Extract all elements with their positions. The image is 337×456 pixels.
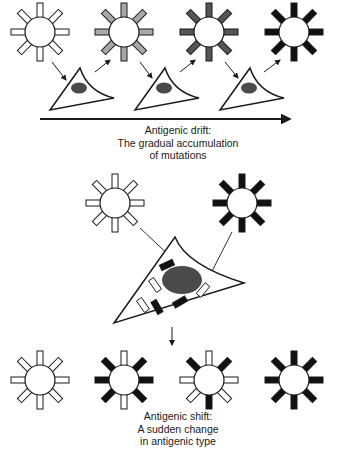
virion-capsid xyxy=(194,17,224,47)
spike-protein xyxy=(112,217,118,232)
infection-arrow xyxy=(140,62,152,78)
shift-caption-line-2: A sudden change xyxy=(98,423,258,436)
spike-protein xyxy=(206,3,212,18)
spike-protein xyxy=(239,174,245,189)
spike-protein xyxy=(121,46,127,61)
spike-protein xyxy=(239,217,245,232)
drift-virus-4 xyxy=(265,3,323,61)
virion-capsid xyxy=(25,365,55,395)
drift-caption-line-3: of mutations xyxy=(98,149,258,162)
spike-protein xyxy=(86,200,101,206)
spike-protein xyxy=(223,377,238,383)
spike-protein xyxy=(95,377,110,383)
shift-caption-line-3: in antigenic type xyxy=(98,435,258,448)
spike-protein xyxy=(206,46,212,61)
spike-protein xyxy=(54,377,69,383)
infection-arrow xyxy=(52,62,66,80)
spike-protein xyxy=(180,377,195,383)
nucleus xyxy=(71,83,87,94)
shift-caption-line-1: Antigenic shift: xyxy=(98,410,258,423)
virion-capsid xyxy=(100,188,130,218)
drift-virus-3 xyxy=(180,3,238,61)
spike-protein xyxy=(265,377,280,383)
progeny-virus-4 xyxy=(265,351,323,409)
drift-cell-3 xyxy=(220,68,284,110)
nucleus xyxy=(156,83,172,94)
drift-virus-1 xyxy=(11,3,69,61)
nucleus xyxy=(162,266,202,294)
progeny-virus-1 xyxy=(11,351,69,409)
virion-capsid xyxy=(109,365,139,395)
spike-protein xyxy=(95,29,110,35)
spike-protein xyxy=(206,351,212,366)
infection-arrow xyxy=(264,60,280,72)
drift-cell-2 xyxy=(135,68,199,110)
spike-protein xyxy=(223,29,238,35)
spike-protein xyxy=(121,3,127,18)
infection-arrow xyxy=(225,62,238,78)
antigenic-variation-diagram xyxy=(0,0,337,456)
parent-virus-1 xyxy=(86,174,144,232)
spike-protein xyxy=(291,394,297,409)
spike-protein xyxy=(308,377,323,383)
spike-protein xyxy=(213,200,228,206)
shift-progeny-viruses xyxy=(11,351,323,409)
spike-protein xyxy=(112,174,118,189)
spike-protein xyxy=(291,351,297,366)
infection-arrow xyxy=(95,60,110,72)
drift-virus-row xyxy=(11,3,323,61)
drift-virus-2 xyxy=(95,3,153,61)
spike-protein xyxy=(129,200,144,206)
spike-protein xyxy=(256,200,271,206)
drift-cell-1 xyxy=(50,68,114,110)
progeny-virus-3 xyxy=(180,351,238,409)
virion-capsid xyxy=(279,365,309,395)
spike-protein xyxy=(138,29,153,35)
parent-virus-2 xyxy=(213,174,271,232)
nucleus xyxy=(241,83,257,94)
drift-caption-line-2: The gradual accumulation xyxy=(98,137,258,150)
virion-capsid xyxy=(194,365,224,395)
spike-protein xyxy=(121,394,127,409)
coinfected-host-cell xyxy=(114,237,244,345)
virion-capsid xyxy=(25,17,55,47)
infection-arrow xyxy=(180,60,195,72)
spike-protein xyxy=(11,29,26,35)
drift-host-cells xyxy=(50,68,284,110)
virion-capsid xyxy=(227,188,257,218)
spike-protein xyxy=(206,394,212,409)
spike-protein xyxy=(37,46,43,61)
spike-protein xyxy=(37,351,43,366)
shift-caption: Antigenic shift: A sudden change in anti… xyxy=(98,410,258,448)
spike-protein xyxy=(121,351,127,366)
virion-capsid xyxy=(279,17,309,47)
spike-protein xyxy=(308,29,323,35)
virion-capsid xyxy=(109,17,139,47)
spike-protein xyxy=(37,394,43,409)
spike-protein xyxy=(291,3,297,18)
progeny-virus-2 xyxy=(95,351,153,409)
spike-protein xyxy=(291,46,297,61)
spike-protein xyxy=(265,29,280,35)
spike-protein xyxy=(180,29,195,35)
spike-protein xyxy=(37,3,43,18)
drift-caption: Antigenic drift: The gradual accumulatio… xyxy=(98,124,258,162)
drift-caption-line-1: Antigenic drift: xyxy=(98,124,258,137)
spike-protein xyxy=(11,377,26,383)
spike-protein xyxy=(138,377,153,383)
spike-protein xyxy=(54,29,69,35)
